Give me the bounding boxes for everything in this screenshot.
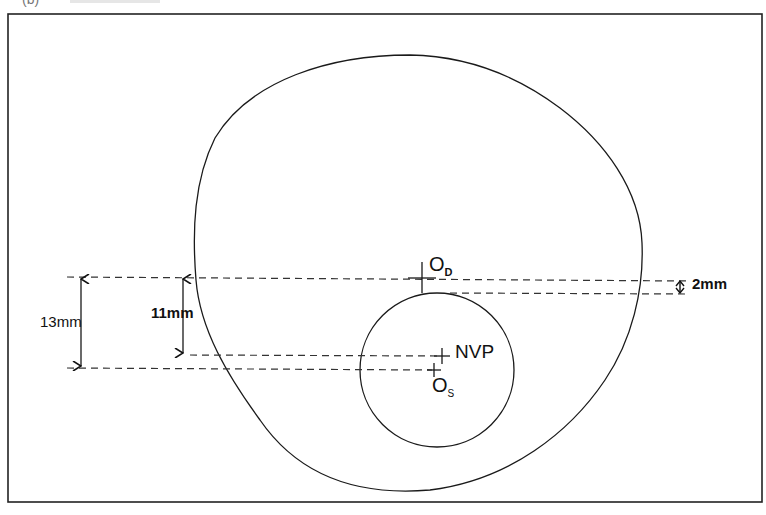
distance-center-label: OD xyxy=(429,253,453,278)
nvp-line xyxy=(190,355,440,356)
nvp-label: NVP xyxy=(455,341,494,362)
near-center-sub: S xyxy=(448,388,455,399)
distance-center-line xyxy=(67,277,690,281)
nvp-drop-label: 11mm xyxy=(151,304,194,321)
nvp-cross xyxy=(434,348,450,364)
distance-center-main: O xyxy=(429,253,445,275)
distance-center-sub: D xyxy=(445,266,453,278)
near-center-line xyxy=(67,368,432,370)
segment-offset-arrow xyxy=(676,281,684,293)
total-drop-label: 13mm xyxy=(40,313,82,330)
near-center-main: O xyxy=(432,374,448,396)
figure-caption: (b) xyxy=(22,0,39,7)
near-center-label: OS xyxy=(432,374,455,399)
segment-offset-label: 2mm xyxy=(692,275,727,292)
segment-top-line xyxy=(450,293,690,294)
figure-frame xyxy=(8,14,762,502)
lens-outline xyxy=(194,55,642,491)
bifocal-lens-diagram: (b) 13mm 11mm 2mm OD NVP OS xyxy=(0,0,766,515)
caption-text-fragment xyxy=(70,0,160,3)
